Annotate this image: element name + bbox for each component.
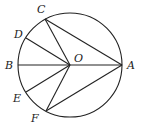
label-point-d: D: [13, 28, 23, 41]
label-point-o: O: [74, 52, 83, 65]
label-point-e: E: [12, 92, 21, 105]
label-point-a: A: [126, 59, 135, 72]
label-point-f: F: [30, 112, 39, 125]
segment-ca: [45, 19, 122, 65]
geometry-diagram: OABCDEF: [0, 0, 142, 132]
segment-do: [26, 38, 70, 65]
label-point-b: B: [4, 59, 13, 72]
label-point-c: C: [37, 3, 46, 16]
segments: [18, 19, 122, 111]
